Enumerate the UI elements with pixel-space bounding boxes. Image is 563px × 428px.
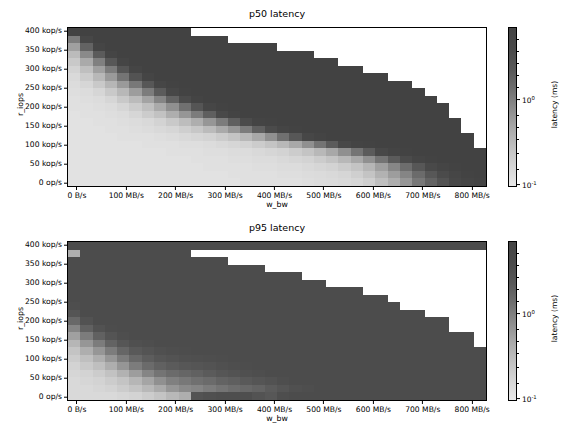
x-axis-label-p50: w_bw xyxy=(67,200,487,209)
xtick-label: 700 MB/s xyxy=(405,401,440,414)
xtick-label: 100 MB/s xyxy=(109,187,144,200)
colorbar-minor-tick xyxy=(517,253,519,254)
xtick-label: 800 MB/s xyxy=(455,187,490,200)
x-axis-label-p95: w_bw xyxy=(67,414,487,423)
xtick-label: 0 B/s xyxy=(67,401,86,414)
xtick-label: 500 MB/s xyxy=(306,187,341,200)
colorbar-minor-tick xyxy=(517,265,519,266)
xtick-label: 400 MB/s xyxy=(257,401,292,414)
ytick-label: 350 kop/s xyxy=(25,46,67,54)
xtick-label: 800 MB/s xyxy=(455,401,490,414)
colorbar-minor-tick xyxy=(517,383,519,384)
panel-title-p50: p50 latency xyxy=(67,8,487,19)
xtick-label: 700 MB/s xyxy=(405,187,440,200)
xtick-label: 600 MB/s xyxy=(356,401,391,414)
xtick-label: 200 MB/s xyxy=(158,401,193,414)
ytick-label: 0 op/s xyxy=(39,393,67,401)
colorbar-ticks-p95: 100 10-1 xyxy=(508,241,517,401)
colorbar-minor-tick xyxy=(517,115,519,116)
colorbar-minor-tick xyxy=(517,277,519,278)
colorbar-minor-tick xyxy=(517,127,519,128)
colorbar-minor-tick xyxy=(517,139,519,140)
colorbar-tick-label: 100 xyxy=(517,96,535,105)
colorbar-label-p95: latency (ms) xyxy=(550,284,559,354)
ytick-label: 200 kop/s xyxy=(25,103,67,111)
colorbar-minor-tick xyxy=(517,329,519,330)
panel-p95: p95 latency 400 kop/s 350 kop/s 300 kop/… xyxy=(0,214,563,428)
xtick-label: 300 MB/s xyxy=(208,401,243,414)
colorbar-minor-tick xyxy=(517,289,519,290)
colorbar-minor-tick xyxy=(517,63,519,64)
colorbar-label-p50: latency (ms) xyxy=(550,70,559,140)
ytick-label: 100 kop/s xyxy=(25,355,67,363)
xtick-label: 0 B/s xyxy=(67,187,86,200)
ytick-label: 50 kop/s xyxy=(30,374,67,382)
ytick-label: 150 kop/s xyxy=(25,122,67,130)
ytick-label: 200 kop/s xyxy=(25,317,67,325)
colorbar-minor-tick xyxy=(517,39,519,40)
panel-p50: p50 latency 400 kop/s 350 kop/s 300 kop/… xyxy=(0,0,563,214)
ytick-label: 400 kop/s xyxy=(25,241,67,249)
y-axis-label-p95: r_iops xyxy=(15,299,24,339)
colorbar-minor-tick xyxy=(517,301,519,302)
ytick-label: 250 kop/s xyxy=(25,84,67,92)
colorbar-minor-tick xyxy=(517,169,519,170)
xtick-label: 300 MB/s xyxy=(208,187,243,200)
colorbar-minor-tick xyxy=(517,51,519,52)
colorbar-minor-tick xyxy=(517,353,519,354)
ytick-label: 250 kop/s xyxy=(25,298,67,306)
colorbar-tick-label: 100 xyxy=(517,310,535,319)
xtick-label: 500 MB/s xyxy=(306,401,341,414)
ytick-label: 350 kop/s xyxy=(25,260,67,268)
colorbar-tick-label: 10-1 xyxy=(517,395,537,404)
colorbar-tick-label: 10-1 xyxy=(517,181,537,190)
panel-title-p95: p95 latency xyxy=(67,222,487,233)
ytick-label: 300 kop/s xyxy=(25,279,67,287)
colorbar-minor-tick xyxy=(517,87,519,88)
ytick-label: 150 kop/s xyxy=(25,336,67,344)
ytick-label: 100 kop/s xyxy=(25,141,67,149)
xtick-label: 400 MB/s xyxy=(257,187,292,200)
colorbar-minor-tick xyxy=(517,341,519,342)
xtick-group-p50: 0 B/s 100 MB/s 200 MB/s 300 MB/s 400 MB/… xyxy=(67,27,487,187)
colorbar-minor-tick xyxy=(517,153,519,154)
ytick-label: 400 kop/s xyxy=(25,27,67,35)
xtick-label: 200 MB/s xyxy=(158,187,193,200)
colorbar-minor-tick xyxy=(517,367,519,368)
ytick-label: 0 op/s xyxy=(39,179,67,187)
colorbar-ticks-p50: 100 10-1 xyxy=(508,27,517,187)
y-axis-label-p50: r_iops xyxy=(15,85,24,125)
colorbar-minor-tick xyxy=(517,75,519,76)
ytick-label: 50 kop/s xyxy=(30,160,67,168)
ytick-label: 300 kop/s xyxy=(25,65,67,73)
xtick-group-p95: 0 B/s 100 MB/s 200 MB/s 300 MB/s 400 MB/… xyxy=(67,241,487,401)
xtick-label: 600 MB/s xyxy=(356,187,391,200)
matplotlib-figure: p50 latency 400 kop/s 350 kop/s 300 kop/… xyxy=(0,0,563,428)
xtick-label: 100 MB/s xyxy=(109,401,144,414)
